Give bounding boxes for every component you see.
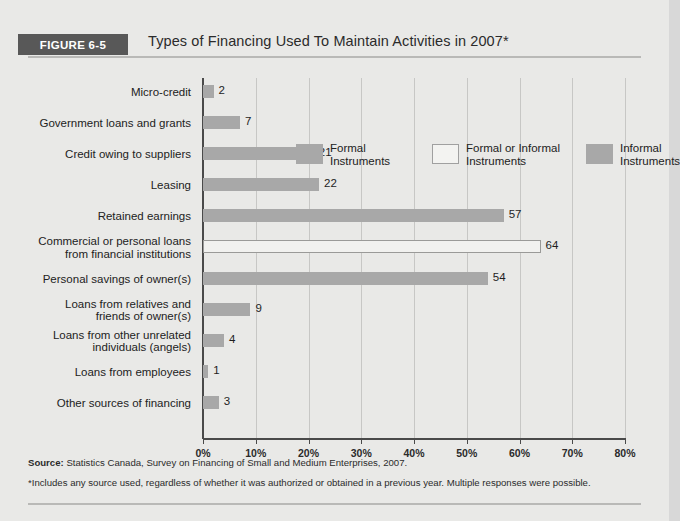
source-note: Source: Statistics Canada, Survey on Fin…: [28, 456, 648, 469]
category-label-line: Loans from other unrelated: [53, 329, 191, 342]
gridline: [625, 78, 626, 438]
category-label-line: Commercial or personal loans: [38, 235, 191, 248]
x-axis-tick-mark: [520, 439, 521, 444]
bar-value-label: 57: [509, 208, 522, 220]
category-label-line: Loans from relatives and: [65, 298, 191, 311]
x-axis-tick-mark: [309, 439, 310, 444]
category-label: Loans from employees: [75, 366, 191, 379]
x-axis-tick-mark: [361, 439, 362, 444]
figure-header: FIGURE 6-5 Types of Financing Used To Ma…: [0, 14, 669, 50]
legend-swatch: [432, 144, 459, 164]
bar-value-label: 64: [546, 239, 559, 251]
category-label-line: Other sources of financing: [57, 397, 191, 410]
bar-value-label: 22: [324, 177, 337, 189]
gridline: [309, 78, 310, 438]
bar: [203, 240, 541, 253]
header-divider: [28, 56, 641, 58]
source-text: Statistics Canada, Survey on Financing o…: [64, 457, 407, 468]
category-label-line: Micro-credit: [131, 86, 191, 99]
legend-label: Formal or InformalInstruments: [466, 142, 560, 168]
figure-notes: Source: Statistics Canada, Survey on Fin…: [28, 456, 648, 489]
gridline: [572, 78, 573, 438]
category-label-line: individuals (angels): [53, 341, 191, 354]
category-label-line: Personal savings of owner(s): [43, 273, 191, 286]
footer-divider: [28, 503, 641, 505]
legend-label: InformalInstruments: [620, 142, 680, 168]
category-label-line: Credit owing to suppliers: [65, 148, 191, 161]
x-axis-tick-mark: [572, 439, 573, 444]
gridline: [520, 78, 521, 438]
category-label-line: Leasing: [151, 179, 191, 192]
plot-area: [203, 78, 625, 438]
bar-value-label: 3: [224, 395, 230, 407]
legend-label-line: Informal: [620, 142, 680, 155]
category-label: Micro-credit: [131, 86, 191, 99]
gridline: [467, 78, 468, 438]
category-label: Retained earnings: [98, 210, 191, 223]
category-label: Loans from relatives andfriends of owner…: [65, 298, 191, 323]
bar: [203, 303, 250, 316]
category-label-line: Government loans and grants: [39, 117, 191, 130]
legend-label-line: Formal: [330, 142, 390, 155]
gridline: [256, 78, 257, 438]
gridline: [361, 78, 362, 438]
x-axis-tick-mark: [256, 439, 257, 444]
legend-swatch: [296, 144, 323, 164]
bar: [203, 116, 240, 129]
x-axis-tick-mark: [467, 439, 468, 444]
bar-value-label: 2: [219, 84, 225, 96]
category-label-line: Retained earnings: [98, 210, 191, 223]
category-label: Credit owing to suppliers: [65, 148, 191, 161]
figure-number-badge: FIGURE 6-5: [18, 34, 128, 55]
gridline: [414, 78, 415, 438]
bar: [203, 178, 319, 191]
category-label: Government loans and grants: [39, 117, 191, 130]
legend-label-line: Instruments: [466, 155, 560, 168]
bar: [203, 396, 219, 409]
bar-value-label: 54: [493, 271, 506, 283]
bar-value-label: 4: [229, 333, 235, 345]
legend-label-line: Instruments: [620, 155, 680, 168]
y-axis-line: [202, 78, 204, 439]
bar: [203, 85, 214, 98]
legend-label: FormalInstruments: [330, 142, 390, 168]
category-label-line: Loans from employees: [75, 366, 191, 379]
source-label: Source:: [28, 457, 64, 468]
legend-swatch: [586, 144, 613, 164]
bar: [203, 209, 504, 222]
bar: [203, 272, 488, 285]
x-axis-tick-mark: [203, 439, 204, 444]
bar: [203, 365, 208, 378]
category-label: Other sources of financing: [57, 397, 191, 410]
bar-value-label: 7: [245, 115, 251, 127]
category-label: Commercial or personal loansfrom financi…: [38, 235, 191, 260]
legend-label-line: Formal or Informal: [466, 142, 560, 155]
x-axis-tick-mark: [414, 439, 415, 444]
footnote: *Includes any source used, regardless of…: [28, 476, 648, 489]
bar-value-label: 9: [255, 302, 261, 314]
category-label: Leasing: [151, 179, 191, 192]
page-title: Types of Financing Used To Maintain Acti…: [148, 33, 509, 49]
bar-value-label: 1: [213, 364, 219, 376]
bar-chart: Micro-credit2Government loans and grants…: [0, 62, 669, 447]
category-label: Personal savings of owner(s): [43, 273, 191, 286]
x-axis-tick-mark: [625, 439, 626, 444]
legend-label-line: Instruments: [330, 155, 390, 168]
category-label: Loans from other unrelatedindividuals (a…: [53, 329, 191, 354]
category-label-line: friends of owner(s): [65, 310, 191, 323]
bar: [203, 334, 224, 347]
category-label-line: from financial institutions: [38, 248, 191, 261]
